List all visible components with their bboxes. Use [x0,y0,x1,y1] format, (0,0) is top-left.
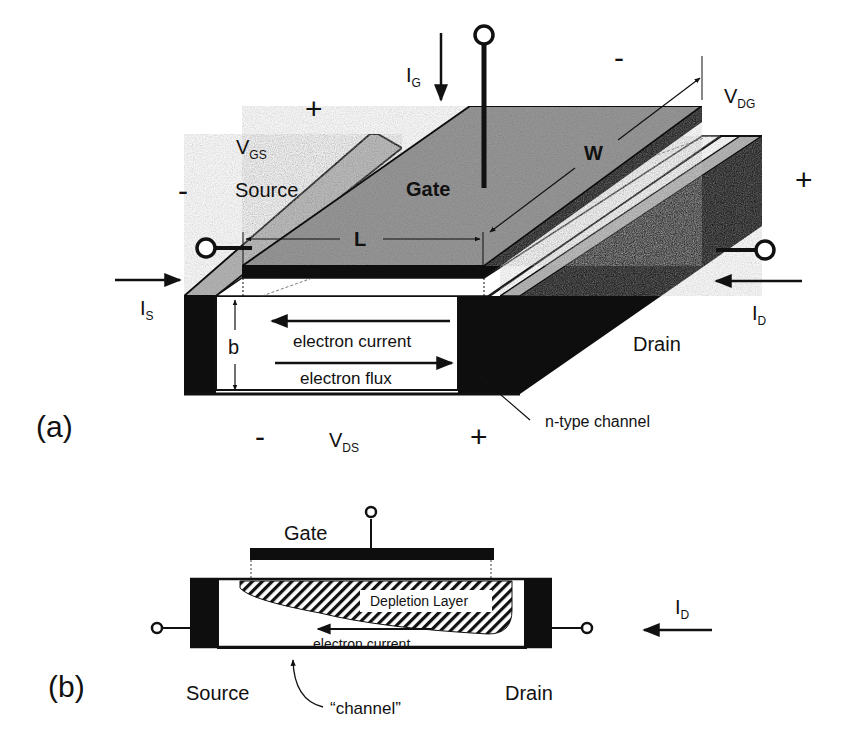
source-label: Source [235,179,298,201]
vds-minus: - [255,420,265,453]
drain-label-b: Drain [505,682,553,704]
vgs-label: VGS [236,136,267,162]
drain-contact-b [524,578,552,648]
source-terminal [197,239,215,257]
gate-bar [250,548,494,560]
drain-terminal-b [582,623,592,633]
gate-terminal-b [366,507,376,517]
jfet-figure: L W b electron current electron flux n-t… [0,0,854,741]
id-label-b: ID [675,596,690,622]
electron-flux-label: electron flux [300,369,392,388]
panel-b-label: (b) [48,670,85,703]
ig-label: IG [406,64,421,90]
vgs-minus: - [178,174,188,207]
panel-a-label: (a) [36,410,73,443]
dim-W-label: W [584,142,603,164]
vgs-plus: + [305,92,323,125]
vdg-minus: - [614,41,624,74]
drain-contact-front [458,296,520,394]
source-terminal-b [152,623,162,633]
electron-current-label-b: electron current [313,636,410,652]
vdg-label: VDG [724,85,755,111]
panel-a: L W b electron current electron flux n-t… [36,26,813,455]
gate-terminal [475,26,493,44]
drain-terminal [756,241,774,259]
id-label: ID [752,302,767,328]
vdg-plus: + [795,163,813,196]
vds-plus: + [470,420,488,453]
vds-label: VDS [329,429,359,455]
dim-L-label: L [354,228,366,250]
panel-b: Gate Depletion Layer electron current ID… [48,507,712,718]
source-contact-front [184,296,216,394]
gate-label: Gate [406,178,450,200]
dim-b-label: b [228,336,239,358]
electron-current-label: electron current [293,332,411,351]
channel-label-b: “channel” [330,699,401,718]
drain-label: Drain [633,333,681,355]
n-type-channel-label: n-type channel [545,413,650,430]
source-contact-b [190,578,218,648]
source-label-b: Source [186,682,249,704]
depletion-layer-label: Depletion Layer [370,593,468,609]
is-label: IS [140,297,154,323]
gate-label-b: Gate [284,522,327,544]
